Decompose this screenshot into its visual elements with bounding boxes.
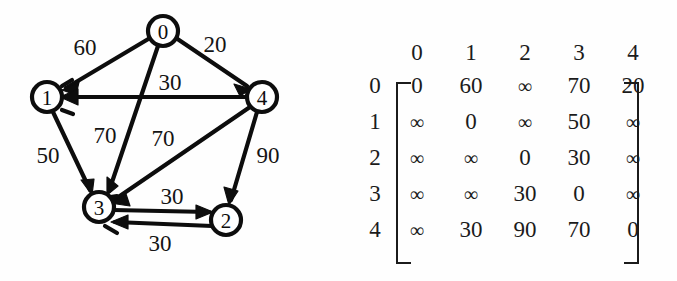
edge-weight-3-2: 30	[161, 184, 184, 209]
edge-weight-0-4: 20	[204, 32, 227, 57]
matrix-cell-1-3: 50	[552, 104, 606, 140]
graph-canvas: 0 1 2 3 4 60 20 70 30 70	[0, 0, 330, 281]
matrix-corner	[360, 38, 390, 68]
matrix-cell-0-2: ∞	[498, 68, 552, 104]
edge-weight-0-1: 60	[74, 35, 97, 60]
node-3[interactable]: 3	[84, 192, 114, 222]
row-header-0: 0	[360, 68, 390, 104]
figure-root: 0 1 2 3 4 60 20 70 30 70	[0, 0, 677, 281]
matrix-cell-2-2: 0	[498, 140, 552, 176]
matrix-cell-1-4: ∞	[606, 104, 660, 140]
matrix-cell-1-1: 0	[444, 104, 498, 140]
node-0-label: 0	[158, 20, 169, 44]
row-header-2: 2	[360, 140, 390, 176]
node-0[interactable]: 0	[148, 16, 178, 46]
graph-panel: 0 1 2 3 4 60 20 70 30 70	[0, 0, 330, 281]
matrix-cell-0-4: 20	[606, 68, 660, 104]
node-1[interactable]: 1	[32, 82, 62, 112]
matrix-row: 3 ∞ ∞ 30 0 ∞	[360, 176, 660, 212]
matrix-cell-1-2: ∞	[498, 104, 552, 140]
matrix-cell-2-4: ∞	[606, 140, 660, 176]
node-4[interactable]: 4	[247, 82, 277, 112]
matrix-cell-4-1: 30	[444, 212, 498, 248]
matrix-cell-3-3: 0	[552, 176, 606, 212]
edge-weight-0-3: 70	[94, 123, 117, 148]
node-2[interactable]: 2	[211, 205, 241, 235]
col-header-0: 0	[390, 38, 444, 68]
edge-weight-1-3: 50	[37, 143, 60, 168]
col-header-1: 1	[444, 38, 498, 68]
row-header-4: 4	[360, 212, 390, 248]
col-header-2: 2	[498, 38, 552, 68]
matrix-row: 0 0 60 ∞ 70 20	[360, 68, 660, 104]
matrix-column-header-row: 0 1 2 3 4	[360, 38, 660, 68]
matrix-cell-2-0: ∞	[390, 140, 444, 176]
matrix-cell-0-3: 70	[552, 68, 606, 104]
row-header-1: 1	[360, 104, 390, 140]
edge-weight-2-3: 30	[149, 231, 172, 256]
matrix-panel: 0 1 2 3 4 0 0 60 ∞ 70 20 1 ∞ 0 ∞ 50 ∞	[340, 0, 677, 281]
matrix-cell-2-1: ∞	[444, 140, 498, 176]
matrix-cell-3-4: ∞	[606, 176, 660, 212]
matrix-cell-3-0: ∞	[390, 176, 444, 212]
node-4-label: 4	[257, 86, 268, 110]
matrix-cell-4-2: 90	[498, 212, 552, 248]
edge-weight-4-3: 70	[152, 126, 175, 151]
matrix-cell-3-2: 30	[498, 176, 552, 212]
edge-4-1	[60, 89, 247, 105]
matrix-row: 2 ∞ ∞ 0 30 ∞	[360, 140, 660, 176]
matrix-cell-4-0: ∞	[390, 212, 444, 248]
matrix-cell-2-3: 30	[552, 140, 606, 176]
matrix-row: 1 ∞ 0 ∞ 50 ∞	[360, 104, 660, 140]
matrix-cell-0-1: 60	[444, 68, 498, 104]
node-3-label: 3	[94, 196, 105, 220]
edge-weight-4-1: 30	[159, 70, 182, 95]
col-header-4: 4	[606, 38, 660, 68]
node-1-label: 1	[42, 86, 53, 110]
matrix-cell-4-3: 70	[552, 212, 606, 248]
node-2-label: 2	[221, 209, 232, 233]
col-header-3: 3	[552, 38, 606, 68]
edge-weight-4-2: 90	[257, 143, 280, 168]
matrix-cell-4-4: 0	[606, 212, 660, 248]
edge-4-2	[224, 112, 257, 205]
matrix-cell-3-1: ∞	[444, 176, 498, 212]
row-header-3: 3	[360, 176, 390, 212]
adjacency-matrix-table: 0 1 2 3 4 0 0 60 ∞ 70 20 1 ∞ 0 ∞ 50 ∞	[360, 38, 660, 248]
matrix-row: 4 ∞ 30 90 70 0	[360, 212, 660, 248]
matrix-cell-1-0: ∞	[390, 104, 444, 140]
matrix-cell-0-0: 0	[390, 68, 444, 104]
